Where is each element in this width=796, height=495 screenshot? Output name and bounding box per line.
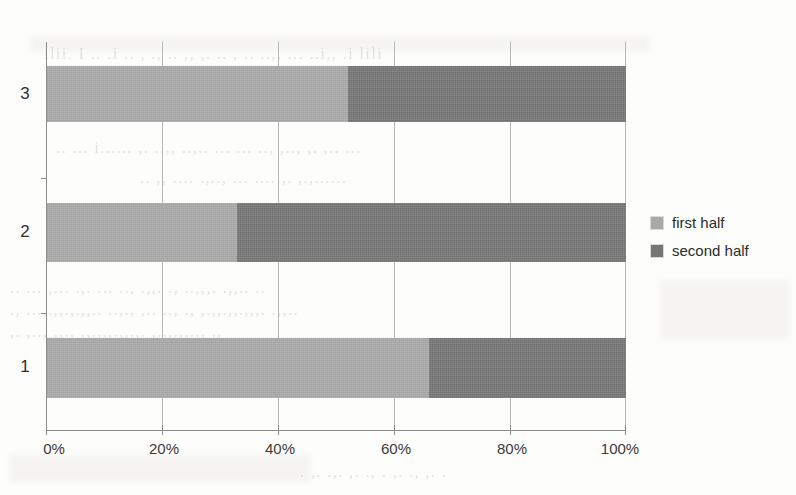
legend-swatch-icon-first-half	[650, 216, 664, 230]
x-tick-label-40: 40%	[265, 440, 295, 457]
bar-segment-2-second-half[interactable]	[237, 203, 626, 262]
x-tick-label-60: 60%	[381, 440, 411, 457]
x-tick-label-20: 20%	[149, 440, 179, 457]
y-tick-mark-upper	[41, 178, 47, 179]
plot-area	[46, 42, 626, 430]
x-tick-label-80: 80%	[497, 440, 527, 457]
x-tick-label-0: 0%	[43, 440, 65, 457]
chart-legend: first half second half	[650, 214, 749, 259]
stacked-bar-chart: 0% 20% 40% 60% 80% 100% 3 2 1 first half…	[0, 0, 796, 495]
legend-swatch-icon-second-half	[650, 244, 664, 258]
y-axis-line	[46, 42, 47, 430]
bar-segment-1-first-half[interactable]	[46, 338, 429, 398]
y-tick-label-3: 3	[14, 84, 36, 104]
x-tick-mark-80	[510, 425, 511, 435]
x-tick-mark-40	[278, 425, 279, 435]
bar-row-1[interactable]	[46, 338, 626, 398]
bar-segment-1-second-half[interactable]	[429, 338, 626, 398]
bar-row-3[interactable]	[46, 66, 626, 122]
legend-label-second-half: second half	[672, 242, 749, 259]
x-axis-line	[46, 430, 626, 431]
y-tick-mark-lower	[41, 313, 47, 314]
legend-item-first-half[interactable]: first half	[650, 214, 749, 231]
legend-item-second-half[interactable]: second half	[650, 242, 749, 259]
bar-segment-3-first-half[interactable]	[46, 66, 348, 122]
x-tick-mark-60	[394, 425, 395, 435]
x-tick-mark-20	[162, 425, 163, 435]
legend-label-first-half: first half	[672, 214, 725, 231]
bar-segment-3-second-half[interactable]	[348, 66, 626, 122]
bar-segment-2-first-half[interactable]	[46, 203, 237, 262]
y-tick-label-2: 2	[14, 222, 36, 242]
x-tick-mark-100	[625, 425, 626, 435]
y-tick-label-1: 1	[14, 357, 36, 377]
bar-row-2[interactable]	[46, 203, 626, 262]
x-tick-label-100: 100%	[601, 440, 639, 457]
x-tick-mark-0	[46, 425, 47, 435]
